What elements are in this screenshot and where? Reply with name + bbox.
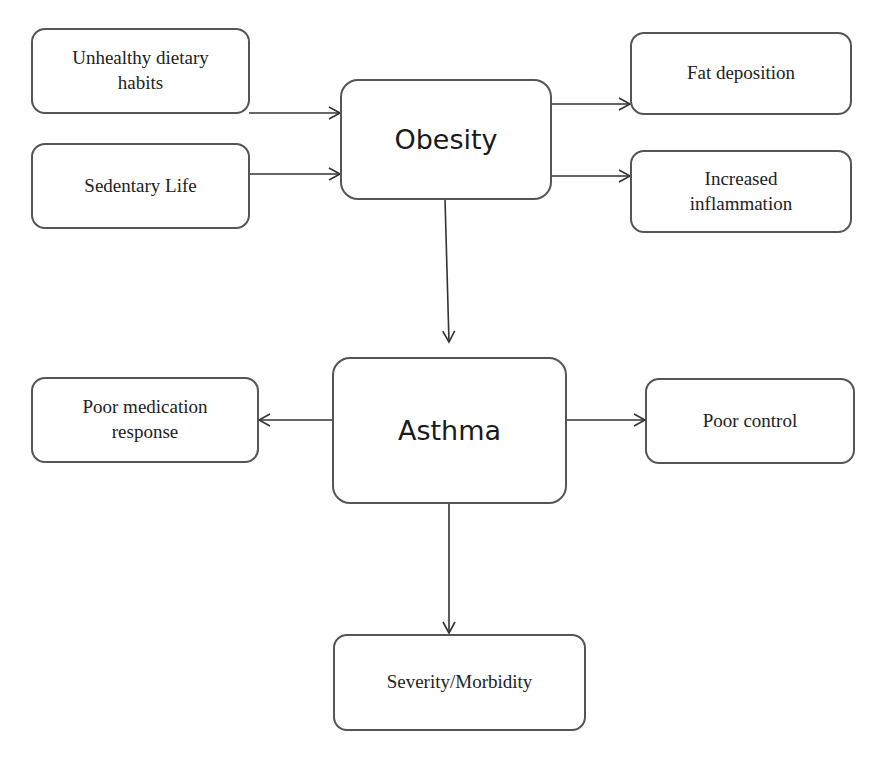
node-label: Unhealthy dietary habits [33,46,248,95]
node-label: Sedentary Life [84,174,196,199]
node-fat-deposition: Fat deposition [630,32,852,115]
node-label: Fat deposition [687,61,795,86]
node-label: Poor control [703,409,797,434]
node-label: Obesity [394,122,497,157]
node-severity-morbidity: Severity/Morbidity [333,634,586,731]
node-increased-inflammation: Increased inflammation [630,150,852,233]
node-label: Increased inflammation [632,167,850,216]
node-label: Severity/Morbidity [387,670,533,695]
node-sedentary-life: Sedentary Life [31,143,250,229]
node-label: Poor medication response [33,395,257,444]
arrow-obesity-to-asthma [445,199,449,342]
node-obesity: Obesity [340,79,552,200]
node-asthma: Asthma [332,357,567,504]
node-unhealthy-diet: Unhealthy dietary habits [31,28,250,114]
node-poor-control: Poor control [645,378,855,464]
node-label: Asthma [398,413,501,448]
node-poor-medication-response: Poor medication response [31,377,259,463]
